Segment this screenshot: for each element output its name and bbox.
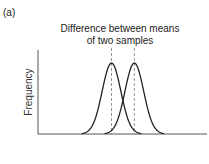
chart: Frequency — [0, 0, 209, 164]
y-axis-label: Frequency — [23, 68, 34, 115]
